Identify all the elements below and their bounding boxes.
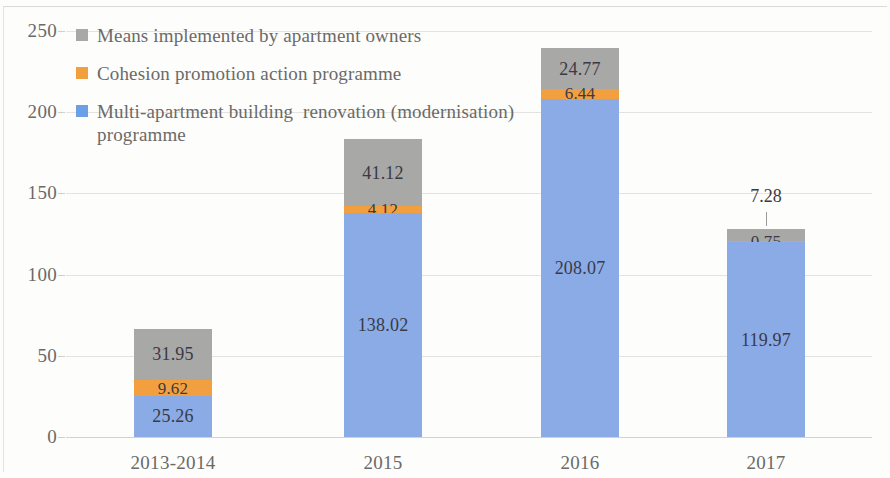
legend-item-label: Means implemented by apartment owners <box>97 24 421 48</box>
callout-leader-line <box>766 212 767 226</box>
legend-item-label: Multi-apartment building renovation (mod… <box>97 100 514 148</box>
legend-swatch-icon <box>76 67 88 79</box>
x-axis-tick-label: 2013-2014 <box>130 452 215 474</box>
y-axis-tick-label: 0 <box>47 426 57 448</box>
legend-item: Multi-apartment building renovation (mod… <box>76 100 546 148</box>
gridline-0 <box>66 437 872 438</box>
legend-item: Cohesion promotion action programme <box>76 62 546 86</box>
data-label: 208.07 <box>555 259 606 277</box>
y-axis-tick-mark <box>58 437 65 438</box>
data-label: 9.62 <box>158 380 189 397</box>
chart-legend: Means implemented by apartment ownersCoh… <box>76 24 546 161</box>
bar-2016: 24.776.44208.072016 <box>541 48 619 437</box>
y-axis-tick-mark <box>58 356 65 357</box>
data-label: 24.77 <box>559 60 601 78</box>
data-label: 119.97 <box>741 331 791 349</box>
bar-segment: 9.62 <box>134 380 212 396</box>
y-axis-tick-label: 150 <box>28 182 57 204</box>
legend-swatch-icon <box>76 105 88 117</box>
bar-segment: 6.44 <box>541 89 619 99</box>
y-axis-tick-label: 50 <box>37 345 57 367</box>
x-axis-tick-label: 2015 <box>363 452 402 474</box>
bar-segment: 31.95 <box>134 329 212 381</box>
bar-segment: 4.12 <box>344 206 422 213</box>
data-label: 25.26 <box>152 407 194 425</box>
legend-item-label: Cohesion promotion action programme <box>97 62 401 86</box>
stacked-bar-chart: 05010015020025031.959.6225.262013-201441… <box>0 0 890 478</box>
bar-2013-2014: 31.959.6225.262013-2014 <box>134 329 212 438</box>
y-axis-tick-mark <box>58 112 65 113</box>
data-label: 138.02 <box>358 316 409 334</box>
data-label: 31.95 <box>152 345 194 363</box>
bar-segment: 24.77 <box>541 48 619 88</box>
legend-swatch-icon <box>76 29 88 41</box>
y-axis-tick-mark <box>58 275 65 276</box>
bar-2015: 41.124.12138.022015 <box>344 139 422 437</box>
bar-segment: 208.07 <box>541 99 619 437</box>
y-axis-tick-mark <box>58 193 65 194</box>
y-axis-tick-mark <box>58 31 65 32</box>
bar-segment: 119.97 <box>727 242 805 437</box>
bar-segment: 25.26 <box>134 396 212 437</box>
data-label-callout: 7.28 <box>750 186 782 207</box>
y-axis-tick-label: 250 <box>28 20 57 42</box>
y-axis-tick-label: 100 <box>28 264 57 286</box>
y-axis-tick-label: 200 <box>28 101 57 123</box>
legend-item: Means implemented by apartment owners <box>76 24 546 48</box>
data-label: 41.12 <box>362 164 404 182</box>
bar-segment: 138.02 <box>344 213 422 437</box>
x-axis-tick-label: 2017 <box>746 452 785 474</box>
x-axis-tick-label: 2016 <box>560 452 599 474</box>
bar-2017: 7.280.75119.972017 <box>727 229 805 437</box>
